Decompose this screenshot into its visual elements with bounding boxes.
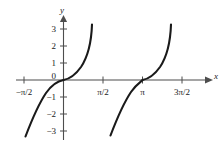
tangent-function-graph: x y 3 2 1 0 −1 −2 −3 −π/2 π/2 π 3π/2 <box>0 0 224 145</box>
plot-canvas <box>0 0 224 145</box>
y-tick-label-1: 1 <box>36 59 56 68</box>
x-tick-label-pi: π <box>132 88 153 97</box>
x-axis-arrowhead <box>205 76 213 83</box>
y-tick-label-2: 2 <box>36 42 56 51</box>
x-tick-label-pi-over-2: π/2 <box>88 88 118 97</box>
tangent-branch-middle <box>64 25 93 81</box>
y-axis-label: y <box>60 6 64 15</box>
tangent-branch-right-upper <box>143 25 172 81</box>
y-axis-arrowhead <box>60 15 67 22</box>
y-tick-label-0: 0 <box>36 72 56 81</box>
x-axis-label: x <box>214 72 218 81</box>
y-tick-label-3: 3 <box>36 25 56 34</box>
y-tick-label-neg2: −2 <box>36 110 56 119</box>
x-tick-label-3pi-over-2: 3π/2 <box>164 88 200 97</box>
x-tick-label-neg-pi-over-2: −π/2 <box>6 88 42 97</box>
y-tick-label-neg3: −3 <box>36 127 56 136</box>
